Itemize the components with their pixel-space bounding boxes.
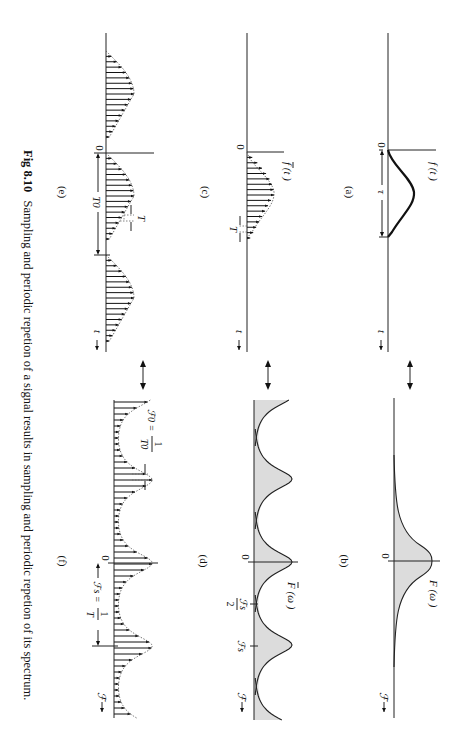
panel-d-axis-label: ℱ [236,692,248,703]
panel-c-samples [247,156,274,239]
panel-a-axis-label: t [376,330,388,334]
double-arrow-icon [265,360,271,390]
double-arrow-icon [140,360,146,390]
panel-a-signal-curve [388,150,414,237]
panel-c-label: (c) [199,186,212,199]
arrowhead-icon [96,641,100,646]
panel-e-samples [106,55,134,342]
arrow-right-icon [382,708,386,712]
panel-f-fs-num: 1 [99,612,110,617]
fourier-pair-arrows [140,360,413,390]
arrow-right-icon [237,346,241,350]
panel-e: T0 T 0 t (e) [56,33,154,352]
panel-e-origin: 0 [94,145,106,151]
figure-caption: Fig 8.10 Sampling and periodic repetion … [21,150,35,700]
panel-a-label: (a) [343,186,356,199]
panel-b-func-label: F (ω ) [427,579,440,608]
panel-c: T 0 f (t ) t (c) [199,33,294,352]
panel-a: τ 0 f (t ) t (a) [343,33,440,352]
arrow-right-icon [240,708,244,712]
arrow-right-icon [100,708,104,712]
arrowhead-icon [96,563,100,568]
rotated-figure: τ 0 f (t ) t (a) 0 F (ω ) ℱ (b) [21,33,440,720]
panel-d-func-label: F (ω ) [285,581,298,610]
panel-c-spacing-label: T [228,226,240,233]
panel-b-origin: 0 [380,553,392,559]
panel-f-fs-label: ℱs = [92,581,103,602]
panel-d-half-num: ℱs [238,598,249,610]
panel-b: 0 F (ω ) ℱ (b) [338,398,440,718]
arrowhead-icon [96,250,100,255]
arrowhead-icon [96,153,100,158]
figure-svg: τ 0 f (t ) t (a) 0 F (ω ) ℱ (b) [0,0,464,751]
panel-c-func-label: f (t ) [281,162,294,181]
panel-f-axis-label: ℱ [96,692,108,703]
arrow-right-icon [379,346,383,350]
panel-d-half-den: 2 [225,602,236,607]
arrowhead-icon [380,232,384,237]
panel-f-fs-den: T [85,611,96,618]
panel-b-axis-label: ℱ [378,692,390,703]
panel-b-label: (b) [338,555,351,568]
panel-c-origin: 0 [235,144,247,150]
panel-a-func-label: f (t ) [427,162,440,181]
panel-f-label: (f) [56,556,69,567]
arrowhead-icon [380,150,384,155]
figure-caption-text: Sampling and periodic repetion of a sign… [21,200,35,700]
panel-e-label: (e) [56,186,69,199]
panel-f-f0-num: 1 [153,442,164,447]
arrow-right-icon [95,346,99,350]
panel-e-spacing-label: T [136,215,148,222]
panel-d-fs-label: ℱs [236,640,247,652]
panel-a-tau-label: τ [376,190,388,195]
figure-number: Fig 8.10 [21,150,35,192]
panel-e-axis-label: t [92,330,104,334]
panel-c-axis-label: t [234,330,246,334]
panel-f-f0-label: ℱ0 = [146,409,157,431]
panel-e-period-label: T0 [91,196,103,208]
figure-page: τ 0 f (t ) t (a) 0 F (ω ) ℱ (b) [0,0,464,751]
panel-f-f0-den: T0 [139,439,150,450]
panel-f: ℱs = 1 T ℱ0 = 1 T0 0 ℱ (f) [56,400,164,718]
panel-d-origin: 0 [240,554,252,560]
panel-d-label: (d) [197,555,210,568]
panel-a-origin: 0 [376,142,388,148]
double-arrow-icon [407,360,413,390]
panel-d: 0 F (ω ) ℱs 2 ℱs ℱ (d) [197,400,298,720]
panel-f-origin: 0 [100,555,112,561]
